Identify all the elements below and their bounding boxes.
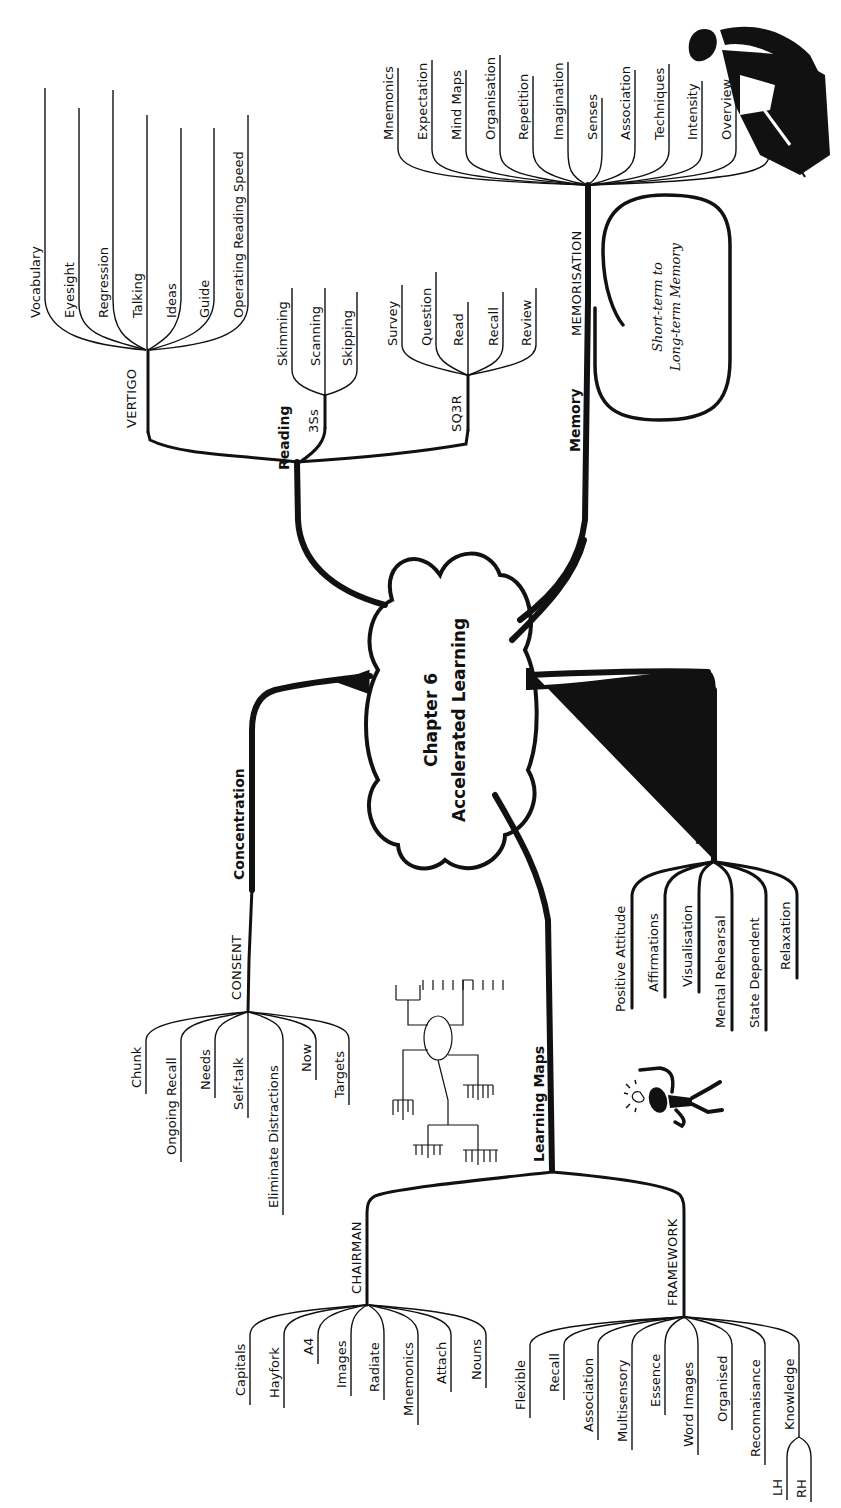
branch-label-learning-states: Learning States — [693, 720, 709, 845]
sub-branch-sq3r: SQ3R Survey Question Read Recall Review — [385, 272, 536, 432]
leaf-images: Images — [334, 1340, 349, 1388]
leaf-review: Review — [519, 299, 534, 346]
idea-lightbulb-figure-icon — [624, 1068, 722, 1126]
branch-concentration: Concentration CONSENT Chunk Ongoing Reca… — [129, 672, 370, 1215]
leaf-essence: Essence — [648, 1354, 663, 1407]
sub-label-3ss: 3Ss — [306, 409, 321, 433]
leaf-talking: Talking — [130, 273, 145, 319]
leaf-flexible: Flexible — [513, 1360, 528, 1410]
sub-branch-chairman: CHAIRMAN Capitals Hayfork A4 Images Radi… — [233, 1221, 486, 1425]
leaf-imagination: Imagination — [551, 63, 566, 140]
mind-map-canvas: Chapter 6 Accelerated Learning Reading V… — [0, 0, 841, 1508]
sub-label-memorisation: MEMORISATION — [569, 231, 584, 336]
branch-learning-maps: Learning Maps CHAIRMAN Capitals Hayfork … — [233, 795, 811, 1502]
leaf-rh: RH — [794, 1479, 809, 1498]
center-title-line1: Chapter 6 — [421, 673, 441, 767]
leaf-read: Read — [451, 313, 466, 346]
leaf-mind-maps: Mind Maps — [449, 70, 464, 140]
leaf-skimming: Skimming — [275, 301, 290, 366]
leaf-word-images: Word Images — [681, 1362, 696, 1447]
leaf-positive-attitude: Positive Attitude — [613, 906, 628, 1012]
leaf-hayfork: Hayfork — [267, 1347, 282, 1398]
leaf-state-dependent: State Dependent — [747, 917, 762, 1028]
leaf-repetition: Repetition — [516, 74, 531, 140]
leaf-a4: A4 — [301, 1338, 316, 1355]
leaf-affirmations: Affirmations — [646, 913, 661, 992]
leaf-association: Association — [618, 66, 633, 140]
sub-branch-framework: FRAMEWORK Flexible Recall Association Mu… — [513, 1218, 811, 1502]
leaf-capitals: Capitals — [233, 1343, 248, 1396]
leaf-recall-framework: Recall — [547, 1353, 562, 1392]
leaf-radiate: Radiate — [367, 1342, 382, 1392]
leaf-eliminate-distractions: Eliminate Distractions — [266, 1065, 281, 1208]
leaf-eyesight: Eyesight — [62, 262, 77, 318]
leaf-association-framework: Association — [581, 1358, 596, 1432]
sub-branch-vertigo: VERTIGO Vocabulary Eyesight Regression T… — [28, 88, 248, 432]
leaf-techniques: Techniques — [652, 68, 667, 141]
leaf-reconnaisance: Reconnaisance — [748, 1359, 763, 1457]
leaf-mental-rehearsal: Mental Rehearsal — [713, 915, 728, 1028]
branch-label-concentration: Concentration — [231, 768, 247, 880]
leaf-survey: Survey — [385, 300, 400, 346]
branch-reading: Reading VERTIGO Vocabulary Eyesight Regr… — [28, 88, 536, 605]
leaf-question: Question — [419, 288, 434, 346]
leaf-now: Now — [299, 1043, 314, 1072]
bubble-line1: Short-term to — [650, 262, 665, 352]
branch-label-memory: Memory — [567, 388, 583, 452]
sub-label-chairman: CHAIRMAN — [349, 1221, 364, 1294]
leaf-mnemonics: Mnemonics — [381, 66, 396, 140]
sub-branch-consent: CONSENT Chunk Ongoing Recall Needs Self-… — [129, 935, 349, 1215]
sub-branch-memorisation: MEMORISATION Mnemonics Expectation Mind … — [381, 55, 769, 336]
leaf-ideas: Ideas — [164, 283, 179, 318]
leaf-needs: Needs — [198, 1049, 213, 1090]
leaf-self-talk: Self-talk — [231, 1057, 246, 1110]
leaf-ongoing-recall: Ongoing Recall — [164, 1057, 179, 1155]
sub-label-sq3r: SQ3R — [449, 395, 464, 432]
mind-map-thumbnail-icon — [393, 980, 503, 1165]
leaf-vocabulary: Vocabulary — [28, 246, 43, 318]
sub-label-vertigo: VERTIGO — [124, 369, 139, 428]
branch-learning-states: Learning States Positive Attitude Affirm… — [528, 668, 797, 1030]
leaf-guide: Guide — [197, 280, 212, 318]
leaf-chunk: Chunk — [129, 1046, 144, 1088]
leaf-senses: Senses — [585, 94, 600, 140]
leaf-mnemonics-chairman: Mnemonics — [401, 1342, 416, 1416]
leaf-multisensory: Multisensory — [615, 1359, 630, 1442]
person-reading-icon — [689, 27, 830, 177]
branch-memory: Memory MEMORISATION Mnemonics Expectatio… — [381, 55, 769, 640]
leaf-intensity: Intensity — [685, 83, 700, 140]
leaf-skipping: Skipping — [340, 310, 355, 366]
leaf-visualisation: Visualisation — [680, 905, 695, 987]
leaf-attach: Attach — [434, 1342, 449, 1384]
leaf-operating-reading-speed: Operating Reading Speed — [231, 151, 246, 318]
leaf-organised: Organised — [715, 1356, 730, 1422]
leaf-relaxation: Relaxation — [778, 901, 793, 970]
memory-bubble: Short-term to Long-term Memory — [595, 195, 730, 420]
leaf-targets: Targets — [332, 1051, 347, 1099]
leaf-organisation: Organisation — [483, 57, 498, 140]
leaf-knowledge: Knowledge — [782, 1359, 797, 1430]
branch-label-learning-maps: Learning Maps — [531, 1046, 547, 1162]
leaf-recall: Recall — [486, 307, 501, 346]
leaf-expectation: Expectation — [415, 63, 430, 140]
bubble-line2: Long-term Memory — [668, 242, 683, 372]
center-title-line2: Accelerated Learning — [449, 618, 469, 822]
sub-label-framework: FRAMEWORK — [665, 1218, 680, 1306]
sub-label-consent: CONSENT — [229, 935, 244, 1000]
leaf-lh: LH — [770, 1479, 785, 1496]
leaf-scanning: Scanning — [308, 306, 323, 366]
leaf-regression: Regression — [96, 247, 111, 318]
leaf-nouns: Nouns — [469, 1339, 484, 1380]
